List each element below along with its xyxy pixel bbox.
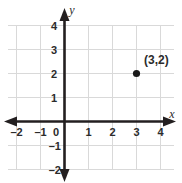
coordinate-plane-svg: –2 –1 0 1 2 3 4 4 3 2 1 –1 –2 x y (3,2) — [0, 0, 182, 183]
x-tick-label-3: 3 — [133, 126, 139, 138]
y-tick-label--1: –1 — [49, 140, 61, 152]
x-tick-label-1: 1 — [85, 126, 91, 138]
y-tick-label-4: 4 — [51, 20, 58, 32]
x-tick-label-0: 0 — [53, 126, 59, 138]
y-tick-label-3: 3 — [51, 44, 57, 56]
y-axis-name: y — [68, 3, 75, 17]
plotted-point-label: (3,2) — [144, 53, 169, 67]
x-tick-label-4: 4 — [157, 126, 164, 138]
y-tick-label-1: 1 — [51, 92, 57, 104]
coordinate-plane-figure: –2 –1 0 1 2 3 4 4 3 2 1 –1 –2 x y (3,2) — [0, 0, 182, 183]
chart-background — [0, 0, 182, 183]
y-tick-label--2: –2 — [49, 164, 61, 176]
x-tick-label--2: –2 — [10, 126, 22, 138]
x-axis-name: x — [168, 107, 175, 121]
x-tick-label-2: 2 — [109, 126, 115, 138]
x-tick-label--1: –1 — [34, 126, 46, 138]
y-tick-label-2: 2 — [51, 68, 57, 80]
plotted-point-3-2 — [133, 70, 140, 77]
